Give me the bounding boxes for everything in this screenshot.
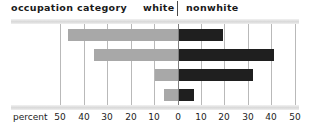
x-tick-label-0: 50 bbox=[50, 112, 70, 122]
x-tick-label-2: 30 bbox=[97, 112, 117, 122]
plot-area bbox=[11, 24, 299, 105]
bar-white-farm bbox=[164, 89, 178, 101]
x-tick-label-10: 50 bbox=[285, 112, 305, 122]
legend-label-white: white bbox=[143, 2, 175, 13]
legend-label-nonwhite: nonwhite bbox=[186, 2, 239, 13]
x-tick-label-3: 20 bbox=[121, 112, 141, 122]
chart-row bbox=[11, 85, 299, 105]
bar-nonwhite-service bbox=[178, 69, 253, 81]
bar-nonwhite-white-collar bbox=[178, 29, 223, 41]
header-divider bbox=[177, 1, 178, 16]
x-axis-title: percent bbox=[13, 112, 47, 122]
chart-header: occupation category white nonwhite bbox=[0, 0, 310, 18]
gridline-zero bbox=[178, 24, 179, 105]
bar-white-white-collar bbox=[68, 29, 178, 41]
x-tick-label-6: 10 bbox=[191, 112, 211, 122]
bar-nonwhite-farm bbox=[178, 89, 194, 101]
x-tick-label-8: 30 bbox=[238, 112, 258, 122]
chart-row bbox=[11, 25, 299, 45]
chart-row bbox=[11, 45, 299, 65]
x-tick-label-4: 10 bbox=[144, 112, 164, 122]
bar-white-blue-collar bbox=[94, 49, 178, 61]
bar-nonwhite-blue-collar bbox=[178, 49, 274, 61]
bar-white-service bbox=[155, 69, 178, 81]
x-axis: percent 504030201001020304050 bbox=[0, 112, 310, 128]
chart-row bbox=[11, 65, 299, 85]
frame-band-bottom bbox=[11, 105, 299, 110]
occupation-category-chart: occupation category white nonwhite white… bbox=[0, 0, 310, 135]
x-tick-label-1: 40 bbox=[74, 112, 94, 122]
x-tick-label-7: 20 bbox=[214, 112, 234, 122]
chart-title: occupation category bbox=[11, 2, 127, 13]
x-tick-label-5: 0 bbox=[168, 112, 188, 122]
x-tick-label-9: 40 bbox=[261, 112, 281, 122]
